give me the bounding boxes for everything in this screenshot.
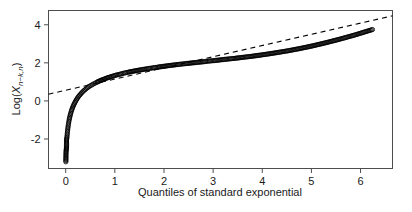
chart-canvas: 0123456 -2024 Quantiles of standard expo… [0, 0, 412, 212]
x-tick-label: 5 [308, 175, 314, 187]
x-tick-label: 1 [112, 175, 118, 187]
y-axis-title-prefix: Log( [10, 93, 22, 115]
y-tick-label: 2 [34, 57, 40, 69]
x-tick-label: 3 [210, 175, 216, 187]
y-tick-label: 4 [34, 19, 40, 31]
x-axis-title: Quantiles of standard exponential [138, 186, 302, 198]
x-tick-label: 6 [357, 175, 363, 187]
qq-plot-figure: 0123456 -2024 Quantiles of standard expo… [0, 0, 412, 212]
y-tick-label: 0 [34, 95, 40, 107]
x-tick-label: 0 [63, 175, 69, 187]
y-axis-title-subscript: n−k,n [16, 66, 25, 86]
y-axis-title-suffix: ) [10, 63, 22, 67]
x-tick-label: 4 [259, 175, 265, 187]
y-tick-label: -2 [31, 133, 41, 145]
x-tick-label: 2 [161, 175, 167, 187]
